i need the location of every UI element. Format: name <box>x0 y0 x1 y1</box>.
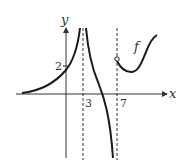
curve-left-branch <box>22 28 80 93</box>
x-axis-label: x <box>169 86 177 101</box>
function-label: f <box>133 39 141 54</box>
y-tick-label-2: 2 <box>55 60 62 73</box>
curve-middle-branch <box>86 28 113 158</box>
open-point-x7 <box>115 57 119 61</box>
y-axis-label: y <box>60 12 69 27</box>
function-graph: x y 2 3 7 f <box>0 0 182 165</box>
x-tick-label-7: 7 <box>120 97 127 110</box>
x-tick-label-3: 3 <box>85 97 92 110</box>
